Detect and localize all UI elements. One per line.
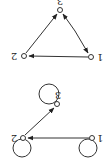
node-3-label: 3 xyxy=(55,90,61,101)
self-loop-1 xyxy=(79,139,97,157)
edge-2-to-3 xyxy=(26,14,57,53)
edge-1-to-3 xyxy=(63,14,75,31)
node-3 xyxy=(55,102,60,107)
edge-2-to-3 xyxy=(25,108,54,135)
node-3 xyxy=(58,8,63,13)
triangle-graph: 3 2 1 xyxy=(11,0,103,63)
node-1-label: 1 xyxy=(97,133,103,144)
node-1 xyxy=(89,55,94,60)
node-2 xyxy=(21,136,26,141)
node-2-label: 2 xyxy=(11,51,17,62)
edge-1-to-2 xyxy=(29,56,88,57)
node-3-label: 3 xyxy=(57,0,63,7)
edge-3-to-1 xyxy=(75,31,88,53)
node-1 xyxy=(90,136,95,141)
node-2-label: 2 xyxy=(11,133,17,144)
node-2 xyxy=(22,54,27,59)
node-1-label: 1 xyxy=(97,52,103,63)
graph-diagram: 3 2 1 3 2 1 xyxy=(0,0,112,163)
loop-graph: 3 2 1 xyxy=(11,84,103,157)
